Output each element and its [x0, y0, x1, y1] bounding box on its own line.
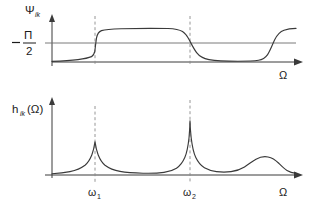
top-panel-y-axis-label: Ψ ik: [25, 4, 41, 18]
bottom-panel-x-axis-label: Ω: [279, 186, 287, 198]
amplitude-response-curve: [52, 121, 296, 174]
psi-subscript: ik: [35, 11, 41, 18]
two-denominator: 2: [26, 45, 32, 57]
top-panel-x-axis-arrowhead: [294, 59, 303, 66]
omega1-tick-label: ω 1: [88, 186, 101, 200]
h-argument: (Ω): [27, 103, 43, 115]
omega2-subscript: 2: [192, 193, 196, 200]
bottom-panel-x-axis-arrowhead: [294, 172, 303, 179]
top-panel-x-axis-label: Ω: [279, 69, 287, 81]
omega2-base: ω: [183, 186, 191, 198]
frequency-response-figure: Ψ ik Π 2 Ω: [0, 0, 320, 210]
h-symbol: h: [12, 103, 18, 115]
omega2-tick-label: ω 2: [183, 186, 196, 200]
minus-half-pi-tick-label: Π 2: [12, 29, 36, 57]
amplitude-response-panel: h ik (Ω) ω 1 ω 2 Ω: [12, 97, 303, 200]
phase-response-curve: [52, 28, 296, 61]
omega1-subscript: 1: [97, 193, 101, 200]
top-panel-y-axis-arrowhead: [49, 14, 55, 22]
bottom-panel-y-axis-arrowhead: [49, 97, 55, 105]
pi-numerator: Π: [24, 29, 32, 41]
bottom-panel-y-axis-label: h ik (Ω): [12, 103, 43, 117]
h-subscript: ik: [20, 110, 26, 117]
figure-root: Ψ ik Π 2 Ω: [0, 0, 320, 210]
phase-response-panel: Ψ ik Π 2 Ω: [12, 4, 303, 81]
psi-symbol: Ψ: [25, 4, 35, 16]
omega1-base: ω: [88, 186, 96, 198]
